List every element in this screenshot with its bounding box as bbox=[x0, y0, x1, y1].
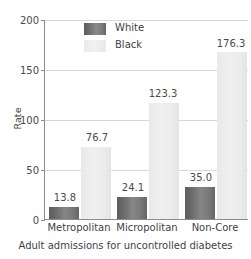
y-tick-label-100: 100 bbox=[5, 115, 39, 126]
gridline-200 bbox=[45, 20, 248, 21]
category-label-noncore: Non-Core bbox=[181, 222, 249, 233]
x-axis-title: Adult admissions for uncontrolled diabet… bbox=[0, 240, 251, 251]
bar-noncore-white[interactable] bbox=[185, 187, 215, 220]
y-tick-label-50: 50 bbox=[5, 165, 39, 176]
bar-chart: Rate 200 150 100 50 0 13.8 76.7 24.1 123… bbox=[0, 0, 251, 259]
category-label-micropolitan: Micropolitan bbox=[113, 222, 181, 233]
bar-value-micropolitan-black: 123.3 bbox=[137, 88, 189, 99]
y-tick-label-150: 150 bbox=[5, 65, 39, 76]
x-axis-line bbox=[44, 219, 248, 220]
y-axis-line bbox=[44, 20, 45, 220]
bar-value-noncore-white: 35.0 bbox=[175, 172, 227, 183]
bar-value-noncore-black: 176.3 bbox=[205, 38, 251, 49]
plot-area: 13.8 76.7 24.1 123.3 35.0 176.3 bbox=[45, 20, 248, 220]
legend-label-white: White bbox=[115, 22, 144, 33]
y-tick-label-0: 0 bbox=[5, 215, 39, 226]
category-label-metropolitan: Metropolitan bbox=[45, 222, 113, 233]
y-tick-label-200: 200 bbox=[5, 15, 39, 26]
y-axis-tick-labels: 200 150 100 50 0 bbox=[0, 0, 39, 259]
y-tick-mark-0 bbox=[41, 220, 45, 221]
bar-micropolitan-white[interactable] bbox=[117, 197, 147, 220]
bar-value-metropolitan-black: 76.7 bbox=[71, 132, 123, 143]
bar-value-micropolitan-white: 24.1 bbox=[107, 182, 159, 193]
legend-swatch-white-icon bbox=[84, 23, 106, 35]
legend-swatch-black-icon bbox=[84, 40, 106, 52]
legend-label-black: Black bbox=[115, 39, 142, 50]
bar-value-metropolitan-white: 13.8 bbox=[39, 192, 91, 203]
bar-micropolitan-black[interactable] bbox=[149, 103, 179, 220]
bar-noncore-black[interactable] bbox=[217, 52, 247, 220]
